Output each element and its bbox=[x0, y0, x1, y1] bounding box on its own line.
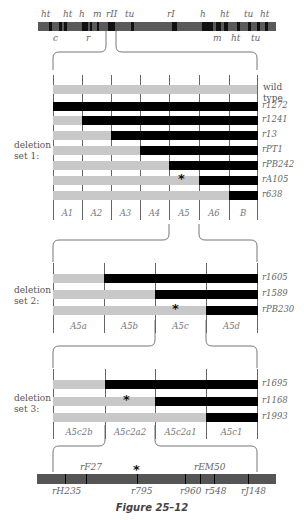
deleted-region bbox=[155, 290, 258, 299]
deleted-region bbox=[169, 161, 258, 170]
segment-label: A5c bbox=[155, 321, 206, 331]
mutant-name: r1168 bbox=[262, 395, 288, 405]
deletion-row bbox=[53, 191, 258, 200]
gene-label: rH235 bbox=[52, 486, 81, 496]
mutant-name: rPB242 bbox=[262, 159, 294, 169]
segment-label: A5b bbox=[104, 321, 155, 331]
gene-label: r bbox=[86, 33, 90, 43]
deletion-row bbox=[53, 131, 258, 140]
mutant-name: r13 bbox=[262, 129, 277, 139]
wild-type-bar bbox=[53, 85, 257, 94]
gene-label: tu bbox=[244, 9, 253, 19]
segment-label: A4 bbox=[140, 208, 169, 218]
mutant-name: r1605 bbox=[262, 272, 288, 282]
deletion-row bbox=[53, 306, 258, 315]
gene-label: h bbox=[200, 9, 206, 19]
segment-label: A5c2a1 bbox=[155, 427, 206, 437]
connector-brackets bbox=[0, 0, 304, 520]
gene-label: r960 bbox=[180, 486, 201, 496]
segment-label: A5 bbox=[169, 208, 199, 218]
set2-label: deletion set 2: bbox=[14, 285, 51, 307]
deletion-row bbox=[53, 274, 258, 283]
deleted-region bbox=[206, 306, 258, 315]
gene-label: tu bbox=[251, 33, 260, 43]
segment-label: A2 bbox=[82, 208, 111, 218]
figure-caption: Figure 25–12 bbox=[0, 502, 304, 513]
mutation-star: * bbox=[178, 174, 185, 184]
gene-label: rI bbox=[167, 9, 175, 19]
gene-label: rJ148 bbox=[241, 486, 266, 496]
deleted-region bbox=[104, 274, 258, 283]
deleted-region bbox=[155, 397, 258, 406]
deletion-row bbox=[53, 116, 258, 125]
deleted-region bbox=[105, 380, 258, 389]
wild-type-label: wild type bbox=[263, 82, 283, 104]
segment-label: A5a bbox=[53, 321, 104, 331]
mutation-star: * bbox=[172, 304, 179, 314]
mutant-name: r638 bbox=[262, 189, 282, 199]
gene-label: m bbox=[213, 33, 222, 43]
gene-label: m bbox=[93, 9, 102, 19]
deletion-row bbox=[53, 290, 258, 299]
segment-label: A5c2a2 bbox=[105, 427, 155, 437]
gene-label: rII bbox=[106, 9, 117, 19]
segment-label: A5c2b bbox=[53, 427, 105, 437]
gene-label: rEM50 bbox=[194, 462, 226, 472]
gene-label: ht bbox=[231, 33, 240, 43]
gene-label: c bbox=[53, 33, 58, 43]
mutation-star: * bbox=[123, 395, 130, 405]
mutant-name: rA105 bbox=[262, 174, 288, 184]
segment-label: A5c1 bbox=[206, 427, 257, 437]
deletion-row bbox=[53, 176, 258, 185]
mutant-name: r1993 bbox=[262, 411, 288, 421]
deleted-region bbox=[206, 413, 258, 422]
deleted-region bbox=[82, 116, 258, 125]
deletion-row bbox=[53, 102, 258, 111]
segment-label: A1 bbox=[53, 208, 82, 218]
deletion-row bbox=[53, 161, 258, 170]
mutant-name: r1241 bbox=[262, 114, 288, 124]
segment-label: B bbox=[229, 208, 257, 218]
gene-label: ht bbox=[260, 9, 269, 19]
gene-label: ht bbox=[41, 9, 50, 19]
gene-label: ht bbox=[63, 9, 72, 19]
top-chromosome bbox=[38, 22, 276, 31]
gene-label: rF27 bbox=[80, 462, 102, 472]
gene-label: tu bbox=[125, 9, 134, 19]
gene-label: r795 bbox=[131, 486, 152, 496]
bottom-chromosome bbox=[37, 474, 276, 484]
deleted-region bbox=[140, 146, 258, 155]
mutant-name: rPT1 bbox=[262, 144, 283, 154]
gene-label: ht bbox=[220, 9, 229, 19]
deleted-region bbox=[111, 131, 258, 140]
set3-label: deletion set 3: bbox=[14, 393, 51, 415]
deletion-row bbox=[53, 380, 258, 389]
deletion-row bbox=[53, 397, 258, 406]
mutant-name: r1589 bbox=[262, 288, 288, 298]
deleted-region bbox=[199, 176, 258, 185]
gene-label: r548 bbox=[205, 486, 226, 496]
deletion-row bbox=[53, 146, 258, 155]
deleted-region bbox=[53, 102, 258, 111]
segment-label: A6 bbox=[199, 208, 229, 218]
segment-label: A5d bbox=[206, 321, 257, 331]
deleted-region bbox=[229, 191, 258, 200]
mutant-name: r1695 bbox=[262, 378, 288, 388]
segment-label: A3 bbox=[111, 208, 140, 218]
set1-label: deletion set 1: bbox=[14, 140, 51, 162]
gene-label: h bbox=[79, 9, 85, 19]
deletion-row bbox=[53, 413, 258, 422]
mutant-name: rPB230 bbox=[262, 304, 294, 314]
